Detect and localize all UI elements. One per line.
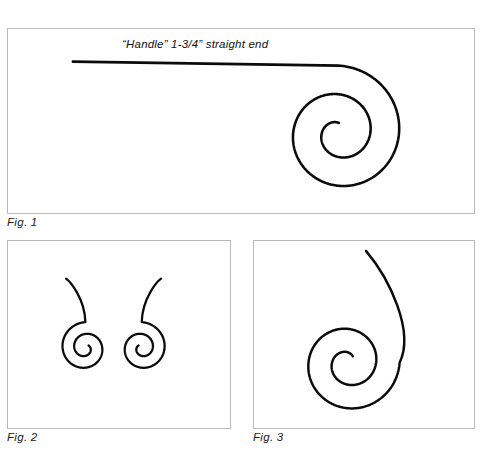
figure-caption-fig1: Fig. 1	[7, 216, 38, 228]
handle-annotation-label: “Handle” 1-3/4” straight end	[122, 38, 268, 50]
fig1-drawing-canvas	[8, 29, 474, 213]
figure-panel-fig2	[7, 240, 231, 429]
fig3-drawing-canvas	[254, 241, 474, 428]
fig2-right-spiral-path	[125, 279, 165, 368]
figure-sheet: “Handle” 1-3/4” straight end Fig. 1 Fig.…	[0, 0, 497, 470]
fig2-left-spiral-path	[63, 279, 103, 368]
figure-caption-fig3: Fig. 3	[253, 431, 284, 443]
figure-panel-fig3	[253, 240, 475, 429]
figure-panel-fig1	[7, 28, 475, 214]
figure-caption-fig2: Fig. 2	[7, 431, 38, 443]
fig2-drawing-canvas	[8, 241, 230, 428]
fig3-spiral-tail-path	[308, 251, 404, 409]
fig1-spiral-path	[73, 62, 399, 186]
